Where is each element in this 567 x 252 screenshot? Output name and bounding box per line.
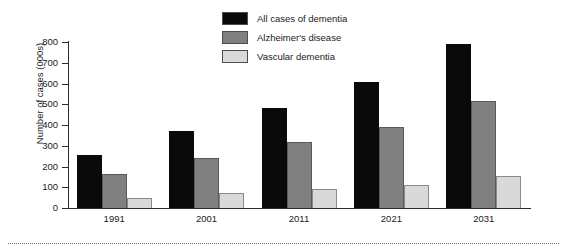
bar <box>169 131 194 208</box>
bar <box>102 174 127 208</box>
bar <box>127 198 152 208</box>
x-axis-tick-label: 2021 <box>351 213 431 224</box>
bar <box>262 108 287 208</box>
y-axis-tick-label: 400 <box>22 119 58 130</box>
y-axis-tick <box>62 104 69 105</box>
bar <box>287 142 312 208</box>
y-axis-tick <box>62 42 69 43</box>
bar <box>446 44 471 208</box>
bar <box>496 176 521 208</box>
y-axis-tick-label: 0 <box>22 202 58 213</box>
x-axis-tick-label: 1991 <box>74 213 154 224</box>
bar-group-2021 <box>354 42 429 208</box>
y-axis-tick <box>62 63 69 64</box>
x-axis-line <box>68 208 531 209</box>
bar <box>471 101 496 208</box>
y-axis-tick-label: 300 <box>22 140 58 151</box>
bar <box>219 193 244 208</box>
bar <box>404 185 429 208</box>
legend-label-all-cases: All cases of dementia <box>257 12 347 25</box>
y-axis-tick <box>62 167 69 168</box>
bar-group-2001 <box>169 42 244 208</box>
bar <box>354 82 379 208</box>
y-axis-tick-label: 200 <box>22 161 58 172</box>
bar-group-2031 <box>446 42 521 208</box>
y-axis-tick <box>62 146 69 147</box>
y-axis-tick-label: 500 <box>22 98 58 109</box>
y-axis-tick-label: 600 <box>22 78 58 89</box>
y-axis-tick-label: 800 <box>22 36 58 47</box>
legend-item-all-cases-of-dementia: All cases of dementia <box>222 12 347 25</box>
bar <box>194 158 219 208</box>
bar <box>312 189 337 208</box>
bottom-dotted-divider <box>8 243 559 244</box>
y-axis-tick <box>62 187 69 188</box>
plot-area <box>68 42 530 208</box>
y-axis-tick <box>62 125 69 126</box>
bar-group-2011 <box>262 42 337 208</box>
bar-chart-figure: All cases of dementia Alzheimer's diseas… <box>0 0 567 252</box>
y-axis-tick <box>62 208 69 209</box>
x-axis-tick-label: 2011 <box>259 213 339 224</box>
bar <box>379 127 404 208</box>
x-axis-tick-label: 2001 <box>167 213 247 224</box>
bar-group-1991 <box>77 42 152 208</box>
y-axis-tick-label: 100 <box>22 181 58 192</box>
bar <box>77 155 102 208</box>
y-axis-tick-label: 700 <box>22 57 58 68</box>
y-axis-tick <box>62 84 69 85</box>
x-axis-tick-label: 2031 <box>444 213 524 224</box>
legend-swatch-icon-all-cases <box>222 12 248 25</box>
